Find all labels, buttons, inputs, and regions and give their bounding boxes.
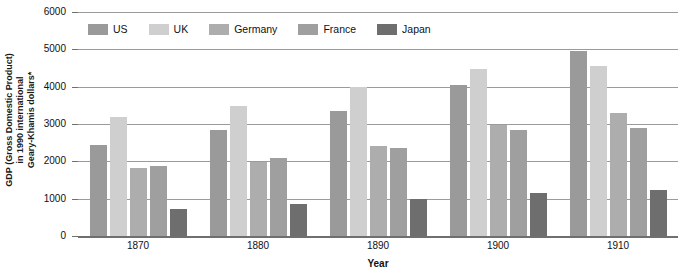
bar-uk-1880 bbox=[230, 106, 247, 236]
bar-us-1910 bbox=[570, 51, 587, 236]
y-tick-label-2000: 2000 bbox=[20, 156, 66, 166]
gdp-bar-chart: GDP (Gross Domestic Product) in 1990 int… bbox=[0, 0, 686, 276]
x-axis-line bbox=[78, 236, 678, 238]
bar-us-1870 bbox=[90, 145, 107, 236]
y-tick-label-1000: 1000 bbox=[20, 194, 66, 204]
bar-group-1880 bbox=[210, 12, 307, 236]
bar-japan-1900 bbox=[530, 193, 547, 236]
y-tick-label-4000: 4000 bbox=[20, 82, 66, 92]
y-tick-label-0: 0 bbox=[20, 231, 66, 241]
bar-japan-1890 bbox=[410, 199, 427, 236]
bar-japan-1910 bbox=[650, 190, 667, 236]
bar-france-1900 bbox=[510, 130, 527, 236]
x-axis-title: Year bbox=[78, 258, 678, 269]
x-tick-label-1900: 1900 bbox=[438, 240, 558, 251]
plot-area: 0100020003000400050006000 18701880189019… bbox=[78, 12, 678, 236]
bar-uk-1890 bbox=[350, 87, 367, 236]
bar-us-1890 bbox=[330, 111, 347, 236]
x-tick-label-1880: 1880 bbox=[198, 240, 318, 251]
y-tick-label-5000: 5000 bbox=[20, 44, 66, 54]
bar-germany-1910 bbox=[610, 113, 627, 236]
bar-france-1870 bbox=[150, 166, 167, 236]
bar-uk-1900 bbox=[470, 69, 487, 236]
bar-france-1910 bbox=[630, 128, 647, 236]
bar-germany-1890 bbox=[370, 146, 387, 236]
bar-group-1890 bbox=[330, 12, 427, 236]
y-tick-1000 bbox=[72, 199, 78, 200]
bar-japan-1870 bbox=[170, 209, 187, 236]
y-tick-label-3000: 3000 bbox=[20, 119, 66, 129]
bar-france-1890 bbox=[390, 148, 407, 236]
bar-france-1880 bbox=[270, 158, 287, 236]
bar-germany-1870 bbox=[130, 168, 147, 236]
y-tick-5000 bbox=[72, 49, 78, 50]
bar-group-1910 bbox=[570, 12, 667, 236]
bar-us-1880 bbox=[210, 130, 227, 236]
bar-group-1900 bbox=[450, 12, 547, 236]
y-axis-title-line-1: GDP (Gross Domestic Product) bbox=[4, 53, 15, 186]
bar-uk-1910 bbox=[590, 66, 607, 236]
bar-germany-1900 bbox=[490, 125, 507, 236]
x-tick-label-1910: 1910 bbox=[558, 240, 678, 251]
x-tick-label-1870: 1870 bbox=[78, 240, 198, 251]
bar-group-1870 bbox=[90, 12, 187, 236]
x-tick-label-1890: 1890 bbox=[318, 240, 438, 251]
y-tick-label-6000: 6000 bbox=[20, 7, 66, 17]
bar-germany-1880 bbox=[250, 162, 267, 236]
y-tick-2000 bbox=[72, 161, 78, 162]
bar-us-1900 bbox=[450, 85, 467, 236]
bar-uk-1870 bbox=[110, 117, 127, 236]
bar-japan-1880 bbox=[290, 204, 307, 236]
y-tick-6000 bbox=[72, 12, 78, 13]
y-tick-4000 bbox=[72, 87, 78, 88]
y-tick-3000 bbox=[72, 124, 78, 125]
